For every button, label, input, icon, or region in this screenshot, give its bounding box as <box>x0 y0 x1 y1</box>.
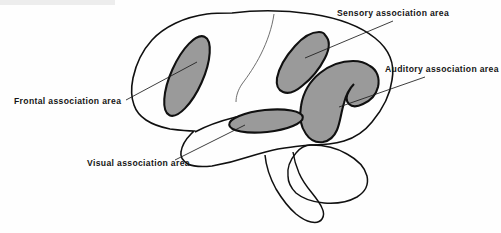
brain-diagram-figure: Frontal association area Sensory associa… <box>0 0 501 233</box>
central-sulcus <box>236 14 274 102</box>
cerebellum-inner-edge <box>288 145 311 176</box>
label-frontal-association-area: Frontal association area <box>14 96 121 106</box>
frontal-association-area <box>155 30 219 122</box>
brainstem-outline <box>265 155 324 222</box>
label-sensory-association-area: Sensory association area <box>337 8 449 18</box>
label-visual-association-area: Visual association area <box>87 158 190 168</box>
label-auditory-association-area: Auditory association area <box>385 64 499 74</box>
brain-diagram-svg: Frontal association area Sensory associa… <box>0 0 501 233</box>
brainstem-medial-edge <box>293 152 299 173</box>
visual-association-area <box>228 106 304 136</box>
